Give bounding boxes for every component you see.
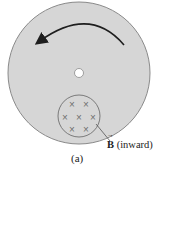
- axle-hole: [75, 69, 84, 78]
- field-symbol: B: [107, 139, 114, 150]
- cross-icon: ×: [90, 112, 96, 123]
- cross-icon: ×: [69, 99, 75, 110]
- cross-icon: ×: [83, 124, 89, 135]
- cross-icon: ×: [62, 112, 68, 123]
- cross-icon: ×: [76, 112, 82, 123]
- figure-caption: (a): [71, 152, 83, 164]
- cross-icon: ×: [83, 99, 89, 110]
- cross-icon: ×: [69, 124, 75, 135]
- field-label: B (inward): [107, 139, 153, 150]
- field-direction-text: (inward): [114, 139, 153, 150]
